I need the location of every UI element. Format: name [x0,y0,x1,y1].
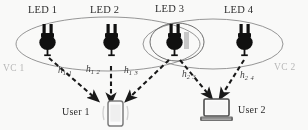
link-h12-label: h1 2 [86,65,100,76]
led-1-label: LED 1 [28,5,57,16]
led-2-plug-icon [103,24,119,56]
link-h24-label: h2 4 [240,71,254,82]
user-1-label: User 1 [62,107,90,117]
led-4-plug-icon [236,24,252,56]
link-h11-label: h1 1 [58,66,72,77]
figure-canvas: LED 1 LED 2 LED 3 LED 4 VC 1 VC 2 h1 1 h… [0,0,308,130]
led-1-plug-icon [39,24,55,56]
vc-1-label: VC 1 [3,64,25,74]
link-h13-label: h1 3 [124,66,138,77]
user-2-label: User 2 [238,105,266,115]
user-1-smartphone-icon [103,101,128,126]
link-h23-label: h2 3 [182,70,196,81]
vc-2-label: VC 2 [274,63,296,73]
vc2-ellipse [143,19,283,69]
led-3-label: LED 3 [155,4,184,15]
led-3-plug-icon [166,24,189,56]
user-2-laptop-icon [200,99,233,121]
led-4-label: LED 4 [224,5,253,16]
led-2-label: LED 2 [90,5,119,16]
